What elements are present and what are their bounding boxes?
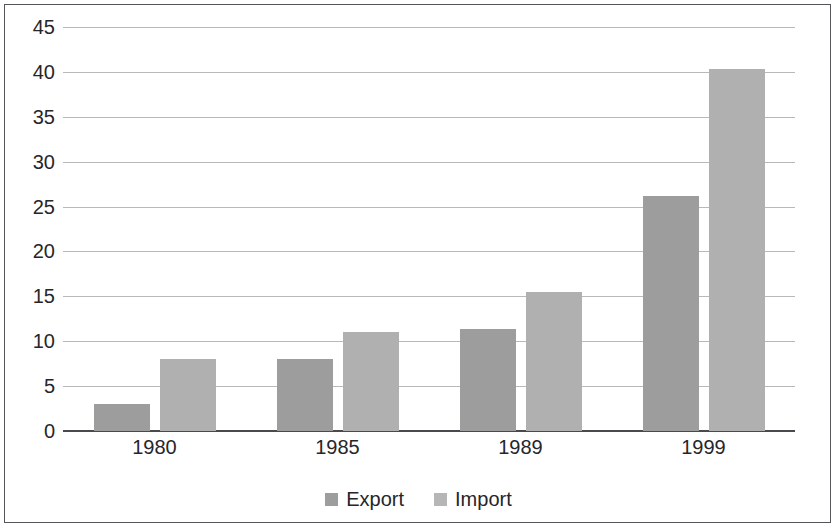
y-tick-label: 40 — [5, 62, 55, 82]
x-tick-label: 1985 — [315, 437, 360, 457]
x-tick-label: 1989 — [498, 437, 543, 457]
x-axis-tick-labels: 1980198519891999 — [63, 437, 795, 467]
y-tick-label: 35 — [5, 107, 55, 127]
x-tick-label: 1999 — [681, 437, 726, 457]
y-tick-label: 5 — [5, 376, 55, 396]
bar-import-1985 — [343, 332, 399, 431]
bars-layer — [63, 27, 795, 431]
bar-import-1999 — [709, 69, 765, 431]
y-tick-label: 30 — [5, 152, 55, 172]
bar-export-1980 — [94, 404, 150, 431]
y-tick-label: 15 — [5, 286, 55, 306]
bar-export-1985 — [277, 359, 333, 431]
y-tick-label: 20 — [5, 241, 55, 261]
bar-import-1989 — [526, 292, 582, 431]
legend-entry-import: Import — [434, 489, 512, 509]
legend-swatch-icon — [434, 493, 447, 506]
y-tick-label: 0 — [5, 421, 55, 441]
x-tick-label: 1980 — [132, 437, 177, 457]
chart-legend: ExportImport — [5, 489, 832, 509]
bar-export-1989 — [460, 329, 516, 431]
y-tick-label: 45 — [5, 17, 55, 37]
legend-swatch-icon — [325, 493, 338, 506]
y-axis-tick-labels: 051015202530354045 — [5, 27, 55, 431]
bar-export-1999 — [643, 196, 699, 431]
y-tick-label: 10 — [5, 331, 55, 351]
y-tick-label: 25 — [5, 197, 55, 217]
legend-label: Import — [455, 489, 512, 509]
legend-entry-export: Export — [325, 489, 404, 509]
chart-frame: 051015202530354045 1980198519891999 Expo… — [4, 4, 831, 523]
legend-label: Export — [346, 489, 404, 509]
bar-import-1980 — [160, 359, 216, 431]
